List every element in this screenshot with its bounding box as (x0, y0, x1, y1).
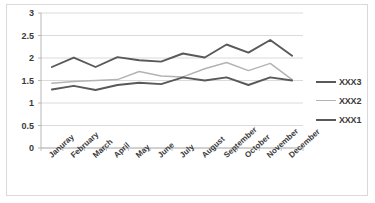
y-tick-label: 1 (10, 98, 34, 108)
y-tick-label: 2 (10, 53, 34, 63)
y-tick-label: 1.5 (10, 76, 34, 86)
series-line-xxx1 (52, 77, 292, 90)
legend-item-xxx2[interactable]: XXX2 (316, 91, 370, 110)
series-lines (52, 40, 292, 90)
y-tick-label: 0 (10, 143, 34, 153)
legend-line-swatch (316, 119, 336, 121)
y-tick-label: 2.5 (10, 31, 34, 41)
legend-line-swatch (316, 81, 336, 83)
legend-line-swatch (316, 100, 336, 101)
legend-label: XXX2 (339, 96, 361, 106)
legend-item-xxx3[interactable]: XXX3 (316, 72, 370, 91)
chart-legend: XXX3XXX2XXX1 (316, 72, 370, 129)
series-line-xxx3 (52, 40, 292, 67)
legend-label: XXX3 (339, 77, 361, 87)
legend-label: XXX1 (339, 115, 361, 125)
y-tick-label: 0.5 (10, 121, 34, 131)
legend-item-xxx1[interactable]: XXX1 (316, 110, 370, 129)
y-tick-label: 3 (10, 8, 34, 18)
